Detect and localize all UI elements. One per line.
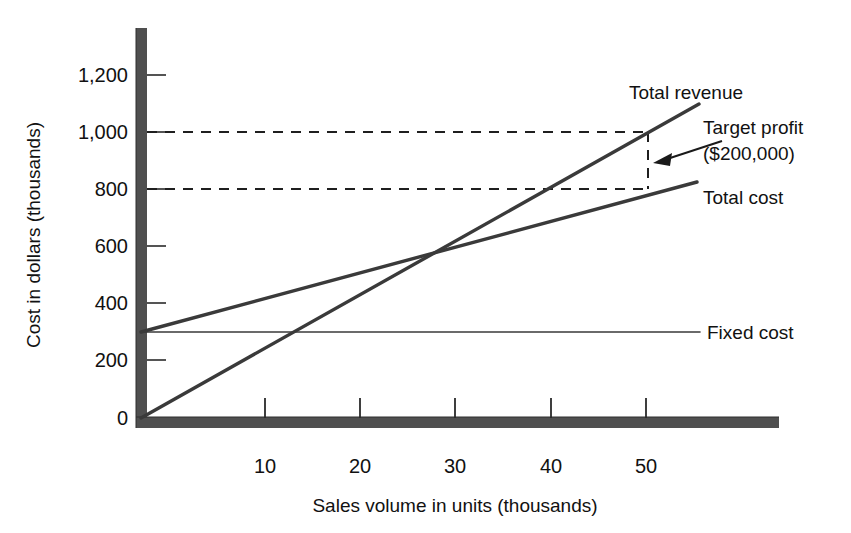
- x-tick-label-30: 30: [444, 455, 466, 477]
- x-tick-label-20: 20: [349, 455, 371, 477]
- x-tick-label-40: 40: [540, 455, 562, 477]
- y-tick-label-1000: 1,000: [78, 121, 128, 143]
- x-axis-title: Sales volume in units (thousands): [312, 495, 597, 516]
- annotation-target-profit-line1: Target profit: [703, 117, 804, 138]
- cost-volume-profit-chart: 1,200 1,000 800 600 400 200 0 10 20 30 4…: [0, 0, 851, 533]
- chart-canvas: 1,200 1,000 800 600 400 200 0 10 20 30 4…: [0, 0, 851, 533]
- series-label-fixed-cost: Fixed cost: [707, 322, 794, 343]
- y-axis-bar: [136, 28, 147, 428]
- series-label-total-revenue: Total revenue: [629, 82, 743, 103]
- y-tick-label-0: 0: [117, 407, 128, 429]
- annotation-target-profit-line2: ($200,000): [703, 143, 795, 164]
- x-tick-label-10: 10: [254, 455, 276, 477]
- y-tick-label-400: 400: [95, 292, 128, 314]
- y-axis-title: Cost in dollars (thousands): [23, 122, 44, 348]
- y-tick-label-200: 200: [95, 349, 128, 371]
- y-tick-label-800: 800: [95, 178, 128, 200]
- y-tick-label-600: 600: [95, 235, 128, 257]
- series-label-total-cost: Total cost: [703, 187, 784, 208]
- x-axis-bar: [136, 417, 779, 428]
- y-tick-label-1200: 1,200: [78, 64, 128, 86]
- x-tick-label-50: 50: [635, 455, 657, 477]
